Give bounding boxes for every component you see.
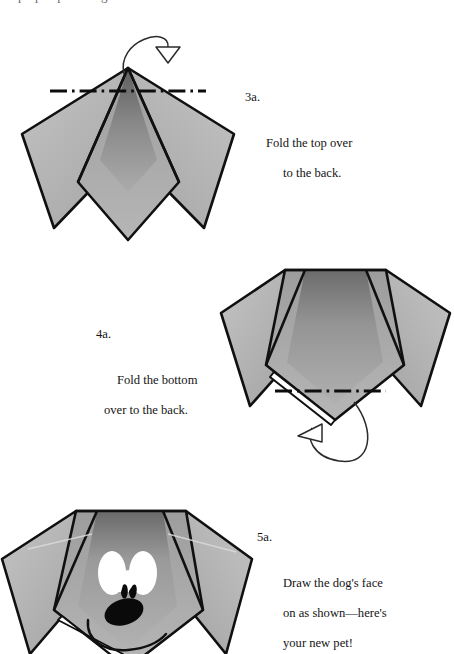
figure-step-5a bbox=[2, 511, 252, 654]
caption-line-3a-2: to the back. bbox=[283, 166, 445, 181]
figure-step-3a bbox=[22, 37, 234, 240]
fold-under-back-arrow-head-4a bbox=[298, 424, 322, 442]
caption-number-3a: 3a. bbox=[245, 90, 260, 105]
caption-number-5a: 5a. bbox=[257, 530, 272, 545]
caption-step-4a: 4a. Fold the bottom over to the back. bbox=[96, 327, 266, 449]
caption-line-4a-1: Fold the bottom bbox=[117, 373, 266, 388]
caption-text-3a: Fold the top over to the back. bbox=[266, 120, 445, 196]
caption-line-5a-3: your new pet! bbox=[283, 636, 452, 651]
caption-line-4a-2: over to the back. bbox=[104, 403, 266, 418]
caption-number-4a: 4a. bbox=[96, 327, 111, 342]
caption-text-4a: Fold the bottom over to the back. bbox=[117, 357, 266, 433]
caption-line-5a-2: on as shown—here's bbox=[283, 606, 452, 621]
caption-step-5a: 5a. Draw the dog's face on as shown—here… bbox=[257, 530, 452, 654]
caption-text-5a: Draw the dog's face on as shown—here's y… bbox=[283, 560, 452, 654]
caption-step-3a: 3a. Fold the top over to the back. bbox=[245, 90, 445, 212]
instruction-page: pop up and give bbox=[0, 0, 454, 654]
caption-line-3a-1: Fold the top over bbox=[266, 136, 445, 151]
caption-line-5a-1: Draw the dog's face bbox=[283, 576, 452, 591]
fold-over-back-arrow-head-3a bbox=[156, 47, 180, 63]
